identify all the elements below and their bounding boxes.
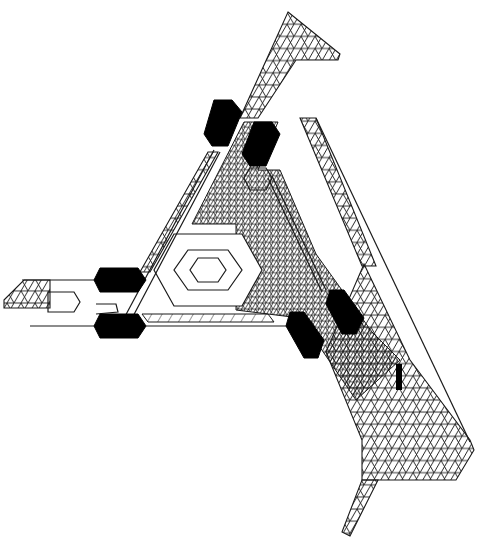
left-stub-hex — [48, 292, 80, 312]
left-notch — [96, 304, 118, 314]
bottom-hatch-bar — [142, 314, 274, 322]
inner-hex-icon — [190, 258, 226, 282]
diagram-svg — [0, 0, 482, 540]
mesh-top-arm — [240, 12, 340, 118]
small-vertical-bar — [396, 364, 402, 390]
left-lower-hex-icon — [94, 314, 146, 338]
hatched-strip-layer — [142, 314, 274, 322]
mesh-bottom-tail — [342, 480, 378, 536]
left-upper-hex-icon — [94, 268, 146, 292]
mesh-left-stub — [4, 280, 50, 308]
diagram-canvas — [0, 0, 482, 540]
